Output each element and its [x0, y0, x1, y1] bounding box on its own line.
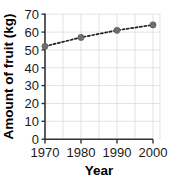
y-tick-label-50: 50: [25, 43, 39, 58]
data-point-2000: [150, 22, 156, 28]
fruit-amount-line-chart: 70 60 50 40 30 20 10 0 1970 1980 1990 20…: [0, 0, 170, 181]
y-tick-label-20: 20: [25, 96, 39, 111]
y-tick-label-70: 70: [25, 7, 39, 22]
y-tick-labels: 70 60 50 40 30 20 10 0: [25, 7, 39, 147]
x-tick-labels: 1970 1980 1990 2000: [31, 145, 168, 160]
x-axis-title: Year: [85, 163, 114, 178]
y-tick-label-10: 10: [25, 114, 39, 129]
data-point-1980: [78, 34, 84, 40]
y-tick-label-40: 40: [25, 61, 39, 76]
x-tick-label-1990: 1990: [103, 145, 132, 160]
x-tick-label-1980: 1980: [67, 145, 96, 160]
y-axis-title: Amount of fruit (kg): [1, 14, 16, 140]
x-axis: [44, 139, 153, 143]
y-tick-label-30: 30: [25, 78, 39, 93]
data-point-1990: [114, 27, 120, 33]
y-axis: [42, 13, 46, 139]
y-tick-label-60: 60: [25, 25, 39, 40]
chart-canvas: 70 60 50 40 30 20 10 0 1970 1980 1990 20…: [0, 0, 170, 181]
x-tick-label-2000: 2000: [139, 145, 168, 160]
x-tick-label-1970: 1970: [31, 145, 60, 160]
data-point-1970: [42, 43, 48, 49]
